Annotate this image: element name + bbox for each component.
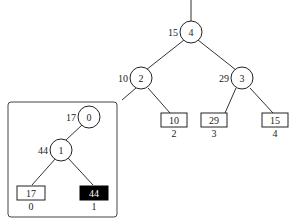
edge-3-leaf-left: [225, 88, 236, 113]
edge-4-2: [146, 40, 184, 70]
svg-text:15: 15: [168, 27, 178, 38]
svg-text:29: 29: [209, 115, 219, 126]
main-tree-edges: [122, 0, 273, 113]
edge-3-leaf-right: [250, 88, 273, 113]
svg-text:44: 44: [89, 188, 99, 199]
node-2: 2 10: [118, 67, 152, 89]
svg-text:10: 10: [118, 73, 128, 84]
svg-text:17: 17: [66, 112, 76, 123]
svg-text:17: 17: [26, 188, 36, 199]
svg-text:15: 15: [270, 115, 280, 126]
svg-text:3: 3: [212, 128, 217, 139]
svg-text:1: 1: [92, 201, 97, 212]
svg-text:0: 0: [29, 201, 34, 212]
edge-2-leaf: [148, 88, 170, 113]
svg-text:10: 10: [169, 115, 179, 126]
node-3: 3 29: [219, 67, 253, 89]
svg-text:4: 4: [273, 128, 278, 139]
svg-text:2: 2: [172, 128, 177, 139]
leaf-4: 15 4: [262, 113, 288, 139]
leaf-3: 29 3: [201, 113, 227, 139]
svg-text:44: 44: [38, 145, 48, 156]
leaf-2: 10 2: [161, 113, 187, 139]
node-4: 4 15: [168, 21, 202, 43]
svg-text:1: 1: [59, 145, 64, 156]
tree-diagram: 4 15 2 10 3 29 10 2 29 3 15 4 0 17: [0, 0, 296, 224]
edge-4-3: [198, 40, 236, 70]
edge-2-left: [122, 88, 136, 100]
svg-text:2: 2: [139, 73, 144, 84]
svg-text:4: 4: [189, 27, 194, 38]
svg-text:29: 29: [219, 73, 229, 84]
svg-text:3: 3: [240, 73, 245, 84]
svg-text:0: 0: [87, 112, 92, 123]
